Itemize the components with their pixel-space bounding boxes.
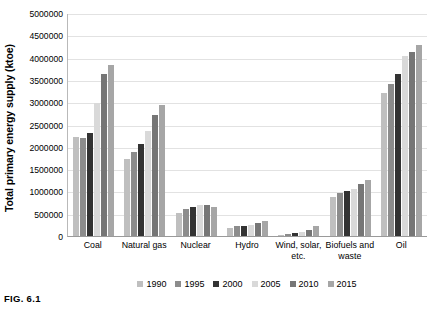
bar-group bbox=[324, 14, 375, 236]
x-axis-category-label: Hydro bbox=[221, 240, 272, 270]
bar bbox=[124, 159, 130, 236]
bar bbox=[73, 137, 79, 236]
bar bbox=[183, 209, 189, 236]
bar-group bbox=[68, 14, 119, 236]
legend-swatch-icon bbox=[175, 281, 181, 287]
legend-item[interactable]: 2005 bbox=[252, 279, 281, 289]
bar bbox=[87, 133, 93, 236]
legend-item[interactable]: 1990 bbox=[137, 279, 166, 289]
bar-group bbox=[376, 14, 427, 236]
y-axis-tick-label: 2000000 bbox=[17, 143, 63, 152]
y-axis-tick-label: 3000000 bbox=[17, 99, 63, 108]
figure-container: Total primary energy supply (ktoe) 50000… bbox=[0, 0, 433, 310]
bar bbox=[381, 93, 387, 236]
chart-legend: 199019952000200520102015 bbox=[67, 276, 427, 292]
bar bbox=[395, 74, 401, 236]
bar bbox=[344, 191, 350, 236]
bar bbox=[204, 205, 210, 236]
bar bbox=[292, 233, 298, 236]
legend-swatch-icon bbox=[213, 281, 219, 287]
bar bbox=[388, 84, 394, 236]
bar bbox=[211, 207, 217, 236]
bar bbox=[190, 207, 196, 236]
x-axis-category-label: Oil bbox=[376, 240, 427, 270]
legend-item[interactable]: 1995 bbox=[175, 279, 204, 289]
bar bbox=[101, 74, 107, 236]
y-axis-title-text: Total primary energy supply (ktoe) bbox=[3, 44, 15, 212]
bar bbox=[248, 225, 254, 236]
bar bbox=[330, 197, 336, 236]
legend-label: 2015 bbox=[337, 279, 357, 289]
legend-item[interactable]: 2015 bbox=[328, 279, 357, 289]
legend-item[interactable]: 2000 bbox=[213, 279, 242, 289]
legend-swatch-icon bbox=[290, 281, 296, 287]
y-axis-tick-label: 0 bbox=[17, 233, 63, 242]
y-axis-tick-label: 4000000 bbox=[17, 54, 63, 63]
bar bbox=[299, 232, 305, 236]
plot-area bbox=[67, 14, 427, 237]
bar bbox=[255, 223, 261, 236]
bar-group bbox=[273, 14, 324, 236]
x-axis-category-label: Natural gas bbox=[118, 240, 169, 270]
x-axis-category-label: Wind, solar, etc. bbox=[273, 240, 324, 270]
legend-label: 2010 bbox=[299, 279, 319, 289]
y-axis-tick-label: 2500000 bbox=[17, 121, 63, 130]
bar bbox=[402, 56, 408, 236]
bar-group bbox=[222, 14, 273, 236]
bar bbox=[80, 138, 86, 236]
legend-label: 1995 bbox=[184, 279, 204, 289]
legend-item[interactable]: 2010 bbox=[290, 279, 319, 289]
y-axis-tick-label: 1500000 bbox=[17, 166, 63, 175]
x-axis-category-label: Nuclear bbox=[170, 240, 221, 270]
y-axis-tick-label: 1000000 bbox=[17, 188, 63, 197]
y-axis-tick-label: 5000000 bbox=[17, 10, 63, 19]
bar bbox=[227, 228, 233, 236]
bar bbox=[416, 45, 422, 236]
bar bbox=[313, 226, 319, 236]
legend-swatch-icon bbox=[328, 281, 334, 287]
bar bbox=[262, 221, 268, 236]
legend-label: 1990 bbox=[146, 279, 166, 289]
bar bbox=[337, 193, 343, 236]
y-axis-tick-labels: 5000000450000040000003500000300000025000… bbox=[18, 0, 66, 250]
legend-swatch-icon bbox=[137, 281, 143, 287]
bar bbox=[131, 152, 137, 236]
bar bbox=[108, 65, 114, 236]
bar bbox=[306, 230, 312, 236]
x-axis-category-label: Biofuels and waste bbox=[324, 240, 375, 270]
bar bbox=[94, 103, 100, 236]
bar bbox=[358, 184, 364, 236]
y-axis-tick-label: 3500000 bbox=[17, 76, 63, 85]
bar-groups bbox=[68, 14, 427, 236]
y-axis-tick-label: 500000 bbox=[17, 210, 63, 219]
bar bbox=[365, 180, 371, 236]
x-axis-category-label: Coal bbox=[67, 240, 118, 270]
bar bbox=[278, 235, 284, 236]
bar bbox=[152, 115, 158, 236]
bar-group bbox=[119, 14, 170, 236]
bar bbox=[145, 131, 151, 236]
bar bbox=[176, 213, 182, 236]
bar bbox=[285, 234, 291, 236]
bar bbox=[138, 144, 144, 236]
bar bbox=[241, 226, 247, 236]
figure-caption: FIG. 6.1 bbox=[4, 293, 41, 304]
legend-label: 2005 bbox=[261, 279, 281, 289]
bar bbox=[351, 189, 357, 236]
legend-swatch-icon bbox=[252, 281, 258, 287]
x-axis-category-labels: CoalNatural gasNuclearHydroWind, solar, … bbox=[67, 240, 427, 270]
bar bbox=[197, 205, 203, 236]
legend-label: 2000 bbox=[222, 279, 242, 289]
y-axis-title: Total primary energy supply (ktoe) bbox=[0, 0, 18, 255]
bar bbox=[234, 226, 240, 236]
bar-group bbox=[171, 14, 222, 236]
y-axis-tick-label: 4500000 bbox=[17, 32, 63, 41]
bar bbox=[409, 52, 415, 236]
bar bbox=[159, 105, 165, 236]
